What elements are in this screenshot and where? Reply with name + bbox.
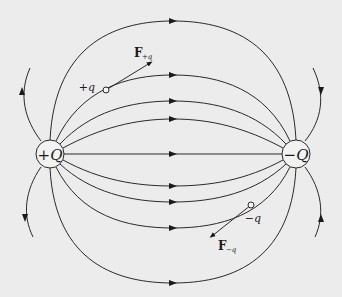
field-line-bottom-1	[63, 160, 283, 186]
arrow-icon	[169, 72, 177, 78]
field-line-bottom-2	[60, 164, 286, 202]
dipole-field-diagram: +Q −Q +q F +q −q F −q	[0, 0, 342, 297]
field-lines	[50, 21, 296, 283]
negative-source-charge: −Q	[282, 140, 310, 168]
force-positive-subscript: +q	[142, 53, 153, 61]
outer-line-right-top	[305, 68, 321, 141]
arrow-icon	[169, 225, 177, 231]
arrow-icon	[169, 151, 177, 157]
positive-test-charge-label: +q	[79, 81, 95, 94]
arrow-icon	[169, 280, 177, 286]
field-line-top-1	[63, 119, 283, 148]
arrow-icon	[169, 116, 177, 122]
force-negative-subscript: −q	[226, 246, 237, 254]
arrow-icon	[169, 98, 177, 104]
arrow-icon	[318, 214, 324, 222]
outer-line-left-top	[24, 68, 41, 141]
arrow-icon	[169, 183, 177, 189]
positive-source-charge: +Q	[36, 140, 64, 168]
field-line-top-2	[60, 101, 286, 144]
arrow-icon	[169, 18, 177, 24]
negative-test-charge-label: −q	[245, 212, 261, 225]
negative-charge-label: −Q	[284, 146, 309, 164]
positive-charge-label: +Q	[38, 146, 63, 164]
outer-line-right-bottom	[305, 167, 321, 237]
positive-test-charge: +q F +q	[79, 46, 153, 94]
arrow-icon	[318, 87, 324, 95]
outer-line-left-bottom	[26, 167, 41, 237]
negative-test-charge: −q F −q	[212, 202, 261, 254]
field-arrows	[169, 18, 177, 286]
arrow-icon	[169, 199, 177, 205]
